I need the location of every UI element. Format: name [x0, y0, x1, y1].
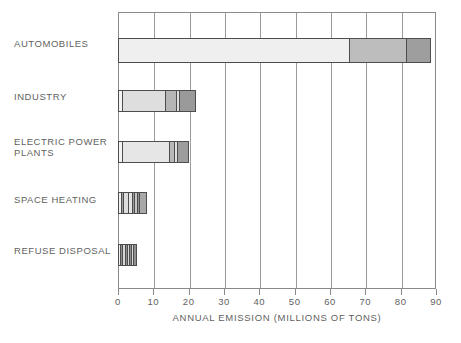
x-axis-tick-label: 70 — [360, 296, 372, 307]
x-axis-title: ANNUAL EMISSION (MILLIONS OF TONS) — [118, 312, 436, 323]
category-label-space-heating: SPACE HEATING — [14, 194, 118, 205]
x-axis-tick-label: 40 — [254, 296, 266, 307]
x-axis-tick — [224, 289, 225, 295]
bar-space-heating — [118, 192, 147, 214]
x-axis-tick-label: 90 — [430, 296, 442, 307]
bar-segment — [119, 39, 350, 62]
x-axis-tick-label: 80 — [395, 296, 407, 307]
electric-power-line-1: ELECTRIC POWER — [14, 136, 107, 147]
bar-refuse-disposal — [118, 244, 137, 266]
x-axis-tick-label: 30 — [218, 296, 230, 307]
bar-segment — [180, 91, 195, 111]
bar-segment — [123, 142, 171, 162]
bar-segment — [350, 39, 407, 62]
x-axis-tick-label: 20 — [183, 296, 195, 307]
x-axis-tick — [401, 289, 402, 295]
bar-automobiles — [118, 38, 431, 63]
bar-electric-power-plants — [118, 141, 189, 163]
x-axis-tick-label: 10 — [148, 296, 160, 307]
electric-power-line-2: PLANTS — [14, 147, 54, 158]
x-axis-tick — [118, 289, 119, 295]
x-axis-tick — [330, 289, 331, 295]
bar-segment — [140, 193, 146, 213]
bar-segment — [123, 91, 166, 111]
x-axis-tick — [436, 289, 437, 295]
x-axis-tick — [295, 289, 296, 295]
category-label-refuse-disposal: REFUSE DISPOSAL — [14, 245, 118, 256]
category-label-automobiles: AUTOMOBILES — [14, 38, 118, 49]
bar-industry — [118, 90, 196, 112]
bar-segment — [407, 39, 430, 62]
x-axis-tick — [189, 289, 190, 295]
bar-segment — [134, 245, 136, 265]
x-axis-tick — [365, 289, 366, 295]
category-label-industry: INDUSTRY — [14, 91, 118, 102]
x-axis-tick — [153, 289, 154, 295]
emissions-bar-chart: AUTOMOBILES INDUSTRY ELECTRIC POWER PLAN… — [0, 0, 461, 343]
x-axis-tick-label: 50 — [289, 296, 301, 307]
category-label-electric-power-plants: ELECTRIC POWER PLANTS — [14, 136, 118, 158]
x-axis-tick — [259, 289, 260, 295]
bar-segment — [178, 142, 188, 162]
bar-segment — [166, 91, 176, 111]
x-axis-tick-label: 60 — [324, 296, 336, 307]
x-axis-tick-label: 0 — [115, 296, 121, 307]
